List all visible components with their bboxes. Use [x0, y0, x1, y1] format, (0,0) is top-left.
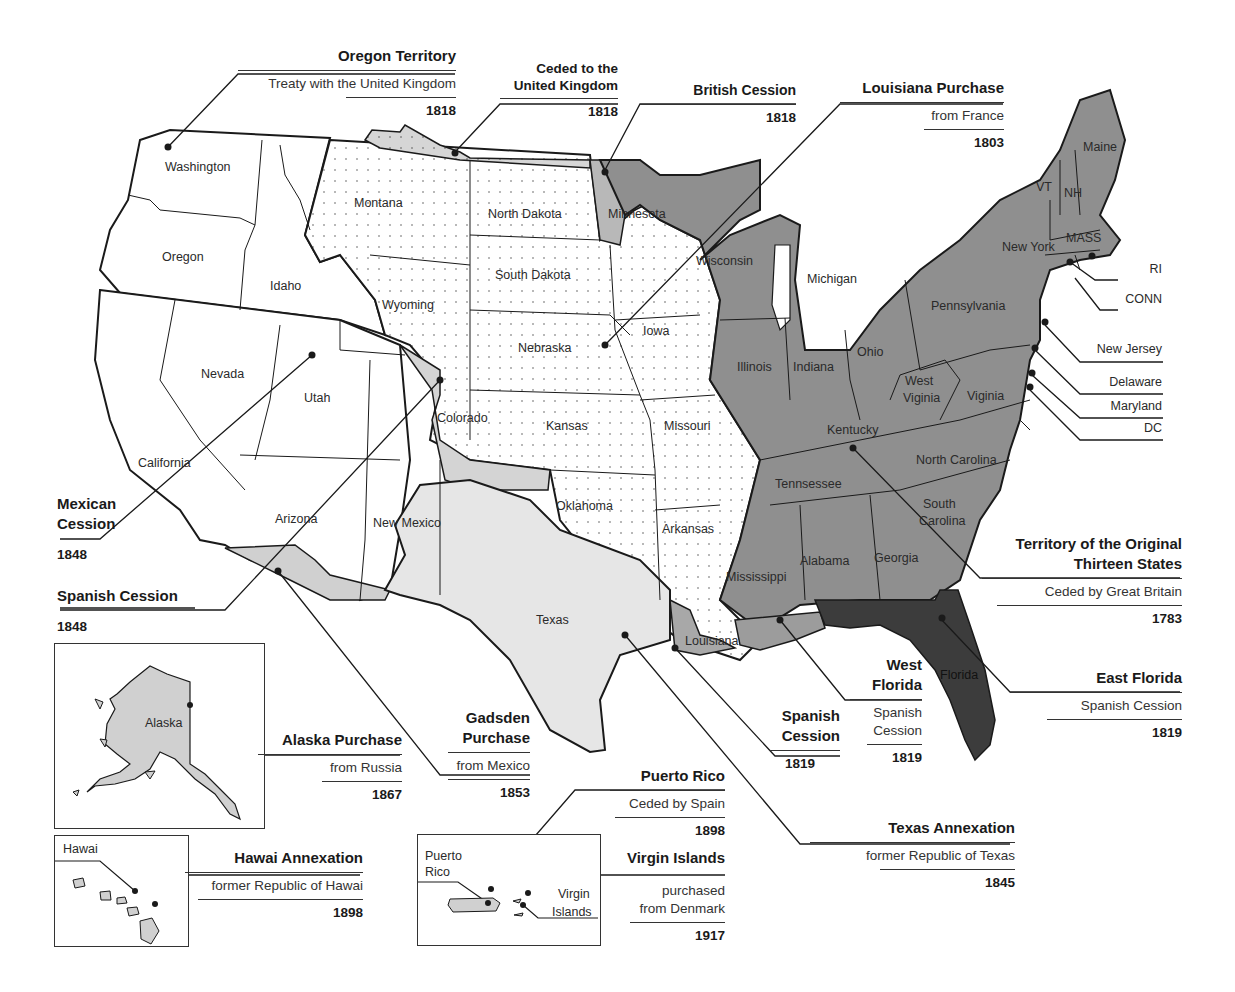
callout-year: 1853 [430, 784, 530, 802]
state-texas: Texas [536, 613, 569, 627]
inset-hawaii: Hawai [54, 835, 189, 947]
callout-title: Mexican [57, 494, 177, 514]
callout-year: 1818 [640, 109, 796, 127]
state-maine: Maine [1083, 140, 1117, 154]
divider [346, 97, 456, 98]
state-michigan: Michigan [807, 272, 857, 286]
divider [238, 70, 456, 71]
state-nh: NH [1064, 186, 1082, 200]
callout-title: Thirteen States [960, 554, 1182, 574]
callout-title: Spanish [760, 706, 840, 726]
callout-title: Cession [760, 726, 840, 746]
callout-year: 1819 [760, 755, 840, 773]
callout-year: 1848 [57, 546, 177, 564]
divider [924, 129, 1004, 130]
inset-alaska: Alaska [54, 643, 265, 829]
callout-title: Ceded to the [490, 60, 618, 77]
callout-subtitle: former Republic of Hawai [185, 877, 363, 895]
state-oklahoma: Oklahoma [556, 499, 613, 513]
callout-title: British Cession [640, 80, 796, 100]
callout-title: Hawai Annexation [185, 848, 363, 868]
callout-subtitle: former Republic of Texas [800, 847, 1015, 865]
callout-east-florida: East Florida Spanish Cession 1819 [1010, 668, 1182, 742]
callout-title: Cession [57, 514, 177, 534]
callout-subtitle: from France [840, 107, 1004, 125]
label-virgin-islands-1: Virgin [558, 887, 590, 901]
divider [448, 779, 530, 780]
label-delaware: Delaware [1060, 375, 1162, 389]
callout-year: 1845 [800, 874, 1015, 892]
state-pennsylvania: Pennsylvania [931, 299, 1005, 313]
callout-title: Purchase [430, 728, 530, 748]
callout-subtitle: Ceded by Great Britain [960, 583, 1182, 601]
callout-louisiana-purchase: Louisiana Purchase from France 1803 [840, 78, 1004, 152]
callout-oregon-territory: Oregon Territory Treaty with the United … [238, 46, 456, 120]
callout-title: Puerto Rico [600, 766, 725, 786]
state-west-virginia-2: Viginia [903, 391, 940, 405]
state-north-carolina: North Carolina [916, 453, 997, 467]
state-wyoming: Wyoming [382, 298, 434, 312]
callout-ceded-to-uk: Ceded to the United Kingdom 1818 [490, 60, 618, 121]
divider [810, 842, 1015, 843]
callout-subtitle: from Denmark [600, 900, 725, 918]
state-tennessee: Tennsessee [775, 477, 842, 491]
callout-subtitle: Cession [850, 722, 922, 740]
divider [198, 899, 363, 900]
callout-year: 1898 [185, 904, 363, 922]
callout-subtitle: Treaty with the United Kingdom [238, 75, 456, 93]
state-vt: VT [1036, 180, 1052, 194]
callout-year: 1917 [600, 927, 725, 945]
callout-year: 1818 [238, 102, 456, 120]
callout-title: Florida [850, 675, 922, 695]
state-minnesota: Minnesota [608, 207, 666, 221]
state-south-carolina-1: South [923, 497, 956, 511]
state-iowa: Iowa [643, 324, 669, 338]
label-conn: CONN [1100, 292, 1162, 306]
state-utah: Utah [304, 391, 330, 405]
callout-title: Alaska Purchase [258, 730, 402, 750]
divider [997, 605, 1182, 606]
state-west-virginia-1: West [905, 374, 933, 388]
callout-mexican-cession: Mexican Cession 1848 [57, 494, 177, 564]
state-louisiana: Louisiana [685, 634, 739, 648]
callout-title: Texas Annexation [800, 818, 1015, 838]
callout-year: 1803 [840, 134, 1004, 152]
state-colorado: Colorado [437, 411, 488, 425]
state-georgia: Georgia [874, 551, 918, 565]
callout-year: 1867 [258, 786, 402, 804]
divider [610, 790, 725, 791]
state-illinois: Illinois [737, 360, 772, 374]
callout-year: 1819 [850, 749, 922, 767]
state-indiana: Indiana [793, 360, 834, 374]
state-missouri: Missouri [664, 419, 711, 433]
label-dc: DC [1060, 421, 1162, 435]
state-south-carolina-2: Carolina [919, 514, 966, 528]
divider [770, 750, 840, 751]
callout-year: 1818 [490, 103, 618, 121]
state-mass: MASS [1066, 231, 1101, 245]
label-maryland: Maryland [1060, 399, 1162, 413]
callout-gadsden-purchase: Gadsden Purchase from Mexico 1853 [430, 708, 530, 802]
state-kentucky: Kentucky [827, 423, 878, 437]
state-montana: Montana [354, 196, 403, 210]
callout-subtitle: from Russia [258, 759, 402, 777]
state-north-dakota: North Dakota [488, 207, 562, 221]
divider [322, 781, 402, 782]
state-kansas: Kansas [546, 419, 588, 433]
callout-alaska-purchase: Alaska Purchase from Russia 1867 [258, 730, 402, 804]
callout-virgin-islands: Virgin Islands purchased from Denmark 19… [600, 848, 725, 945]
divider [185, 872, 363, 873]
callout-subtitle: from Mexico [430, 757, 530, 775]
state-arkansas: Arkansas [662, 522, 714, 536]
divider [880, 869, 1015, 870]
state-new-mexico: New Mexico [373, 516, 441, 530]
callout-year: 1783 [960, 610, 1182, 628]
label-new-jersey: New Jersey [1060, 342, 1162, 356]
label-ri: RI [1100, 262, 1162, 276]
state-alabama: Alabama [800, 554, 849, 568]
callout-title: West [850, 655, 922, 675]
divider [850, 699, 922, 700]
state-south-dakota: South Dakota [495, 268, 571, 282]
callout-title: Territory of the Original [960, 534, 1182, 554]
state-ohio: Ohio [857, 345, 883, 359]
